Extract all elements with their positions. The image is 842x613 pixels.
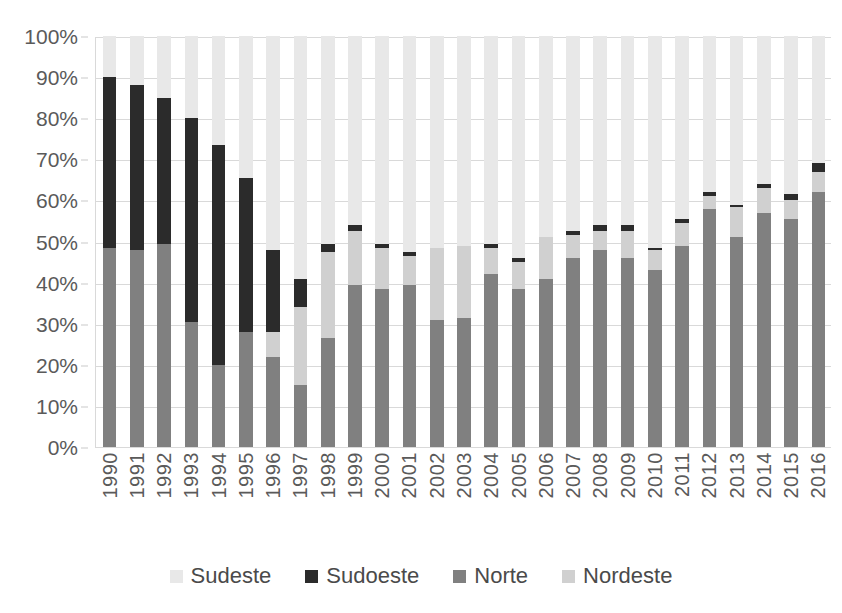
bar-segment[interactable]	[703, 36, 717, 192]
bar-segment[interactable]	[266, 357, 280, 447]
bar-column[interactable]	[730, 37, 744, 447]
bar-segment[interactable]	[484, 36, 498, 244]
bar-segment[interactable]	[484, 274, 498, 447]
bar-segment[interactable]	[348, 285, 362, 447]
bar-column[interactable]	[703, 37, 717, 447]
bar-segment[interactable]	[103, 36, 117, 77]
bar-segment[interactable]	[375, 289, 389, 447]
bar-segment[interactable]	[294, 279, 308, 308]
bar-segment[interactable]	[593, 250, 607, 447]
bar-column[interactable]	[375, 37, 389, 447]
bar-column[interactable]	[675, 37, 689, 447]
bar-segment[interactable]	[157, 244, 171, 447]
bar-segment[interactable]	[321, 244, 335, 252]
bar-segment[interactable]	[403, 252, 417, 256]
bar-segment[interactable]	[757, 184, 771, 188]
bar-column[interactable]	[157, 37, 171, 447]
bar-column[interactable]	[348, 37, 362, 447]
bar-segment[interactable]	[593, 225, 607, 231]
bar-segment[interactable]	[130, 85, 144, 249]
bar-segment[interactable]	[103, 77, 117, 248]
bar-segment[interactable]	[294, 385, 308, 447]
bar-segment[interactable]	[130, 250, 144, 447]
bar-segment[interactable]	[648, 36, 662, 248]
bar-segment[interactable]	[675, 219, 689, 223]
bar-column[interactable]	[403, 37, 417, 447]
bar-segment[interactable]	[185, 36, 199, 118]
bar-segment[interactable]	[648, 270, 662, 447]
bar-column[interactable]	[321, 37, 335, 447]
bar-segment[interactable]	[403, 36, 417, 252]
bar-segment[interactable]	[430, 36, 444, 248]
bar-column[interactable]	[784, 37, 798, 447]
bar-segment[interactable]	[348, 225, 362, 231]
bar-segment[interactable]	[484, 248, 498, 275]
bar-segment[interactable]	[457, 318, 471, 447]
bar-column[interactable]	[593, 37, 607, 447]
bar-column[interactable]	[648, 37, 662, 447]
bar-column[interactable]	[621, 37, 635, 447]
bar-column[interactable]	[812, 37, 826, 447]
bar-segment[interactable]	[430, 248, 444, 320]
bar-segment[interactable]	[266, 332, 280, 357]
bar-segment[interactable]	[321, 252, 335, 338]
bar-segment[interactable]	[430, 320, 444, 447]
legend-item[interactable]: Sudeste	[170, 563, 272, 589]
bar-segment[interactable]	[157, 98, 171, 244]
bar-segment[interactable]	[621, 36, 635, 225]
bar-column[interactable]	[539, 37, 553, 447]
bar-segment[interactable]	[812, 192, 826, 447]
bar-segment[interactable]	[512, 289, 526, 447]
bar-segment[interactable]	[403, 256, 417, 285]
bar-segment[interactable]	[212, 365, 226, 447]
bar-segment[interactable]	[375, 244, 389, 248]
bar-segment[interactable]	[403, 285, 417, 447]
bar-segment[interactable]	[784, 36, 798, 194]
bar-segment[interactable]	[621, 231, 635, 258]
bar-segment[interactable]	[593, 231, 607, 249]
bar-segment[interactable]	[757, 188, 771, 213]
bar-segment[interactable]	[648, 250, 662, 271]
bar-segment[interactable]	[784, 219, 798, 447]
bar-segment[interactable]	[593, 36, 607, 225]
bar-segment[interactable]	[348, 36, 362, 225]
bar-segment[interactable]	[784, 194, 798, 200]
bar-segment[interactable]	[375, 248, 389, 289]
bar-segment[interactable]	[675, 223, 689, 246]
bar-segment[interactable]	[812, 163, 826, 171]
bar-segment[interactable]	[321, 36, 335, 244]
bar-column[interactable]	[294, 37, 308, 447]
bar-column[interactable]	[457, 37, 471, 447]
legend-item[interactable]: Nordeste	[562, 563, 672, 589]
bar-segment[interactable]	[512, 262, 526, 289]
bar-segment[interactable]	[212, 36, 226, 145]
bar-column[interactable]	[566, 37, 580, 447]
bar-segment[interactable]	[185, 118, 199, 321]
bar-segment[interactable]	[675, 36, 689, 219]
bar-segment[interactable]	[675, 246, 689, 447]
bar-segment[interactable]	[539, 279, 553, 448]
bar-segment[interactable]	[648, 248, 662, 250]
bar-column[interactable]	[212, 37, 226, 447]
bar-segment[interactable]	[457, 246, 471, 318]
bar-segment[interactable]	[566, 231, 580, 235]
bar-segment[interactable]	[294, 36, 308, 278]
bar-segment[interactable]	[730, 205, 744, 207]
bar-segment[interactable]	[730, 207, 744, 238]
bar-segment[interactable]	[757, 36, 771, 184]
bar-segment[interactable]	[566, 36, 580, 231]
bar-segment[interactable]	[157, 36, 171, 98]
bar-segment[interactable]	[703, 196, 717, 208]
bar-segment[interactable]	[103, 248, 117, 447]
bar-segment[interactable]	[812, 172, 826, 193]
bar-column[interactable]	[266, 37, 280, 447]
bar-segment[interactable]	[539, 36, 553, 237]
bar-segment[interactable]	[730, 36, 744, 205]
bar-segment[interactable]	[294, 307, 308, 385]
bar-segment[interactable]	[539, 237, 553, 278]
bar-segment[interactable]	[566, 235, 580, 258]
bar-column[interactable]	[430, 37, 444, 447]
bar-column[interactable]	[484, 37, 498, 447]
bar-segment[interactable]	[730, 237, 744, 447]
bar-segment[interactable]	[566, 258, 580, 447]
